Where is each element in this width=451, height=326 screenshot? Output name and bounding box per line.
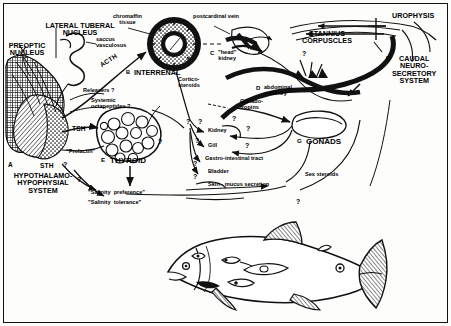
question-mark-8: ? xyxy=(245,142,249,149)
label-stannius-corpuscles: STANNIUS CORPUSCLES xyxy=(296,30,358,45)
label-saccus-vasculosus: saccus vasculosus xyxy=(96,37,126,48)
organ-gill: Gill xyxy=(208,143,217,149)
question-mark-1: ? xyxy=(186,118,190,125)
label-hypothalamo-hypophysial-system: HYPOTHALAMO- HYPOPHYSIAL SYSTEM xyxy=(0,172,86,194)
marker-caudal-neurosecretory: F xyxy=(386,55,390,61)
label-preoptic-nucleus: PREOPTIC NUCLEUS xyxy=(2,42,52,57)
organ-gastro-intestinal-tract: Gastro-intestinal tract xyxy=(205,156,263,162)
question-mark-6: ? xyxy=(158,138,162,145)
organ-bladder: Bladder xyxy=(208,169,229,175)
question-mark-2: ? xyxy=(198,118,202,125)
organ-skin-mucus-secretion: Skin - mucus secretion xyxy=(208,182,269,188)
label-interrenal: INTERRENAL xyxy=(134,69,180,76)
question-mark-10: ? xyxy=(77,176,81,183)
label-prolactin: "Prolactin" xyxy=(66,149,95,155)
label-releasers: Releasers ? xyxy=(83,88,114,94)
label-caudal-neurosecretory-system: CAUDAL NEURO- SECRETORY SYSTEM xyxy=(392,55,436,84)
question-mark-11: ? xyxy=(296,198,300,205)
label-systemic-octapeptides: Systemic octapeptides ? xyxy=(91,98,130,109)
label-gonads: GONADS xyxy=(306,138,341,146)
label-head-kidney: "head" kidney xyxy=(218,50,236,61)
label-corticosteroids: Cortico- steroids xyxy=(178,77,200,88)
label-tsh: TSH xyxy=(72,126,86,133)
label-salinity-tolerance: "Salinity tolerance" xyxy=(88,200,141,206)
marker-gonads: G xyxy=(297,138,302,144)
marker-thyroid: E xyxy=(101,157,105,163)
label-urophysis: UROPHYSIS xyxy=(392,12,434,19)
question-mark-3: ? xyxy=(195,137,199,144)
question-mark-stannius: ? xyxy=(302,50,306,57)
fish-illustration xyxy=(168,222,387,310)
organ-kidney: Kidney xyxy=(208,128,227,134)
marker-abdominal-kidney: D xyxy=(256,85,260,91)
question-mark-12: ? xyxy=(232,115,236,122)
label-chromaffin-tissue: chromaffin tissue xyxy=(113,14,142,25)
question-mark-4: ? xyxy=(193,160,197,167)
diagram-canvas: LATERAL TUBERAL NUCLEUS PREOPTIC NUCLEUS… xyxy=(0,0,451,326)
question-mark-5: ? xyxy=(193,173,197,180)
label-thyroid: THYROID xyxy=(110,157,146,165)
label-salinity-preference: "Salinity preference" xyxy=(88,190,145,196)
marker-interrenal: B xyxy=(126,70,130,76)
abdominal-kidney-artwork xyxy=(226,52,360,101)
label-postcardinal-vein: postcardinal vein xyxy=(193,14,239,20)
marker-hypothalamo-hypophysial: A xyxy=(8,162,13,169)
label-sth: STH xyxy=(40,163,54,170)
label-abdominal-kidney: abdominal kidney xyxy=(264,85,292,96)
question-mark-9: ? xyxy=(63,161,67,168)
label-sex-steroids: Sex steroids xyxy=(305,172,338,178)
marker-head-kidney: C xyxy=(210,50,214,56)
question-mark-7: ? xyxy=(246,125,250,132)
label-gonadotropins: Gonado- tropins xyxy=(240,99,263,110)
